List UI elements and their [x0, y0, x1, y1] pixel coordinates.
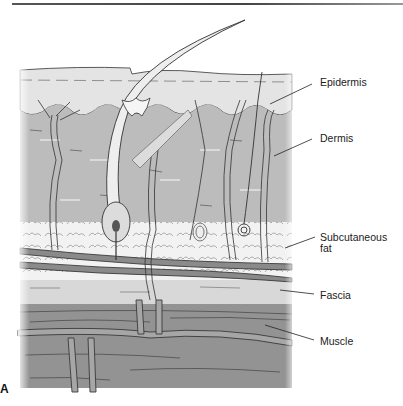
label-epidermis: Epidermis [320, 77, 367, 88]
label-fascia: Fascia [320, 290, 351, 301]
label-dermis: Dermis [320, 133, 353, 144]
panel-letter: A [0, 382, 9, 396]
label-fat: fat [320, 243, 332, 254]
label-muscle: Muscle [320, 336, 353, 347]
